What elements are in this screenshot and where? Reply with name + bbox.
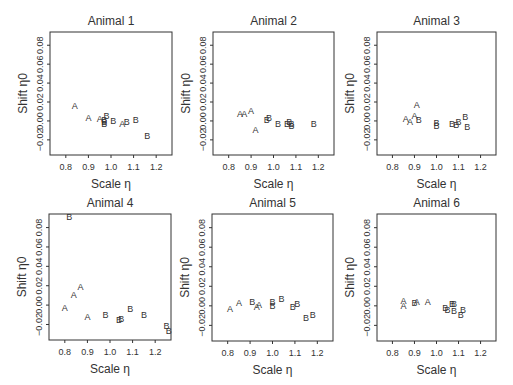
x-axis-label: Scale η xyxy=(91,177,131,191)
x-tick-label: 1.2 xyxy=(311,348,324,358)
panel-title: Animal 2 xyxy=(250,14,297,28)
y-axis-label: Shift η0 xyxy=(343,257,357,298)
data-point-b: B xyxy=(127,304,133,314)
x-tick-label: 0.9 xyxy=(408,162,421,172)
data-point-a: A xyxy=(85,113,91,123)
y-tick-label: 0.02 xyxy=(198,93,208,111)
data-point-b: B xyxy=(278,294,284,304)
data-point-a: A xyxy=(227,304,233,314)
data-point-b: B xyxy=(269,301,275,311)
x-tick-label: 1.1 xyxy=(127,162,140,172)
y-tick-label: 0.08 xyxy=(35,36,45,54)
plot-frame xyxy=(377,32,496,155)
x-tick-label: 1.2 xyxy=(474,348,487,358)
data-point-b: B xyxy=(141,310,147,320)
y-tick-label: −0.02 xyxy=(198,128,208,151)
x-tick-label: 0.8 xyxy=(386,162,399,172)
y-tick-label: 0.04 xyxy=(34,258,44,276)
y-axis-label: Shift η0 xyxy=(15,256,29,297)
panel-title: Animal 5 xyxy=(249,196,296,210)
y-tick-label: 0.00 xyxy=(362,112,372,130)
panel-title: Animal 1 xyxy=(88,14,135,28)
y-tick-label: 0.02 xyxy=(34,277,44,295)
data-point-a: A xyxy=(236,298,242,308)
data-point-b: B xyxy=(456,117,462,127)
x-tick-label: 1.1 xyxy=(452,162,465,172)
panel-animal-1: Animal 10.80.91.01.11.2−0.020.000.020.04… xyxy=(16,14,172,191)
data-point-b: B xyxy=(411,298,417,308)
panel-animal-2: Animal 20.80.91.01.11.2−0.020.000.020.04… xyxy=(179,14,334,191)
x-tick-label: 1.1 xyxy=(452,348,465,358)
plot-frame xyxy=(377,214,496,341)
y-tick-label: 0.06 xyxy=(35,55,45,73)
x-tick-label: 1.1 xyxy=(289,348,302,358)
panel-animal-4: Animal 40.80.91.01.11.2−0.020.000.020.04… xyxy=(15,196,172,376)
plot-frame xyxy=(213,32,334,155)
y-tick-label: 0.06 xyxy=(362,55,372,73)
data-point-b: B xyxy=(294,299,300,309)
y-tick-label: 0.08 xyxy=(362,36,372,54)
x-tick-label: 0.9 xyxy=(408,348,421,358)
plot-frame xyxy=(49,214,171,340)
data-point-b: B xyxy=(462,112,468,122)
x-tick-label: 0.8 xyxy=(59,347,72,357)
plot-frame xyxy=(212,214,333,341)
y-tick-label: 0.06 xyxy=(362,238,372,256)
x-tick-label: 0.8 xyxy=(60,162,73,172)
data-point-a: A xyxy=(400,301,406,311)
data-point-b: B xyxy=(451,306,457,316)
data-point-a: A xyxy=(62,303,68,313)
panel-title: Animal 3 xyxy=(413,14,460,28)
data-point-b: B xyxy=(66,212,72,222)
x-tick-label: 0.9 xyxy=(245,162,258,172)
data-point-b: B xyxy=(166,326,172,336)
data-point-b: B xyxy=(460,305,466,315)
y-tick-label: −0.02 xyxy=(197,314,207,337)
data-point-b: B xyxy=(103,111,109,121)
y-tick-label: −0.02 xyxy=(35,128,45,151)
data-point-b: B xyxy=(303,313,309,323)
x-tick-label: 1.1 xyxy=(290,162,303,172)
x-tick-label: 1.2 xyxy=(149,347,162,357)
data-point-b: B xyxy=(266,113,272,123)
data-point-a: A xyxy=(241,109,247,119)
y-tick-label: −0.02 xyxy=(34,313,44,336)
y-tick-label: 0.02 xyxy=(362,278,372,296)
data-point-a: A xyxy=(414,100,420,110)
data-point-b: B xyxy=(310,310,316,320)
plot-frame xyxy=(50,32,172,155)
y-tick-label: 0.02 xyxy=(197,278,207,296)
x-tick-label: 1.0 xyxy=(430,162,443,172)
data-point-b: B xyxy=(275,119,281,129)
x-tick-label: 1.0 xyxy=(430,348,443,358)
y-tick-label: 0.08 xyxy=(197,219,207,237)
figure-small-multiples: Animal 10.80.91.01.11.2−0.020.000.020.04… xyxy=(0,0,513,385)
x-tick-label: 0.8 xyxy=(221,348,234,358)
y-tick-label: 0.08 xyxy=(198,36,208,54)
data-point-b: B xyxy=(101,119,107,129)
y-axis-label: Shift η0 xyxy=(178,257,192,298)
x-axis-label: Scale η xyxy=(252,363,292,377)
y-tick-label: 0.06 xyxy=(197,238,207,256)
data-point-a: A xyxy=(72,101,78,111)
data-point-b: B xyxy=(288,121,294,131)
data-point-b: B xyxy=(249,297,255,307)
x-tick-label: 1.2 xyxy=(150,162,163,172)
y-tick-label: −0.02 xyxy=(362,314,372,337)
data-point-b: B xyxy=(311,119,317,129)
x-axis-label: Scale η xyxy=(253,177,293,191)
x-tick-label: 1.2 xyxy=(312,162,325,172)
y-tick-label: 0.00 xyxy=(197,297,207,315)
x-tick-label: 1.1 xyxy=(126,347,139,357)
data-point-a: A xyxy=(78,282,84,292)
panel-animal-5: Animal 50.80.91.01.11.2−0.020.000.020.04… xyxy=(178,196,333,377)
data-point-a: A xyxy=(425,297,431,307)
data-point-a: A xyxy=(256,300,262,310)
data-point-b: B xyxy=(416,115,422,125)
y-tick-label: −0.02 xyxy=(362,128,372,151)
y-tick-label: 0.02 xyxy=(35,93,45,111)
data-point-a: A xyxy=(71,290,77,300)
y-tick-label: 0.00 xyxy=(35,112,45,130)
data-point-b: B xyxy=(110,116,116,126)
x-axis-label: Scale η xyxy=(90,362,130,376)
